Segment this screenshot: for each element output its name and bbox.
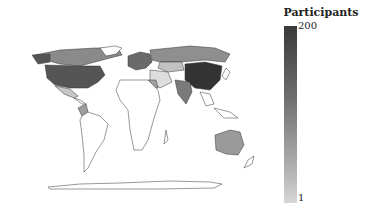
region-australia	[215, 130, 244, 155]
colorbar	[284, 26, 297, 203]
region-india	[175, 80, 192, 104]
region-usa	[45, 65, 105, 88]
legend-title: Participants	[270, 6, 372, 19]
region-russia	[150, 46, 230, 62]
region-africa	[116, 80, 160, 150]
world-choropleth-map	[0, 0, 280, 212]
region-europe	[128, 52, 152, 70]
region-south-america	[80, 112, 108, 172]
region-kazakhstan	[158, 62, 184, 72]
region-alaska	[32, 54, 50, 64]
colorbar-min-label: 1	[298, 192, 304, 203]
colorbar-max-label: 200	[298, 20, 317, 31]
